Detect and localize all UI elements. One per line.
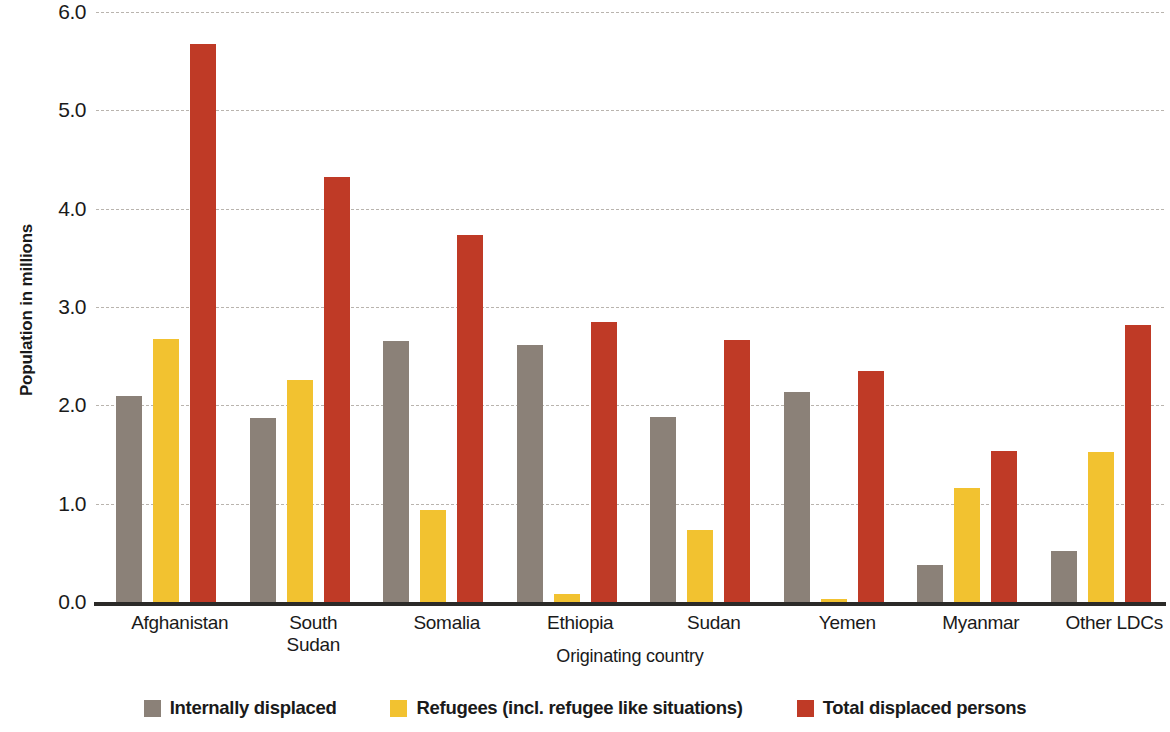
bar-group-bars bbox=[96, 12, 230, 602]
bar bbox=[724, 340, 750, 602]
legend-swatch-icon bbox=[390, 700, 407, 717]
bar bbox=[954, 488, 980, 602]
x-category-label: Myanmar bbox=[897, 612, 1031, 642]
bar bbox=[420, 510, 446, 602]
x-category-label: Ethiopia bbox=[497, 612, 631, 642]
bar bbox=[383, 341, 409, 602]
bar-group bbox=[497, 12, 631, 602]
bar bbox=[1051, 551, 1077, 602]
y-tick-label: 5.0 bbox=[6, 98, 86, 122]
y-tick-label: 0.0 bbox=[6, 590, 86, 614]
bar-group-bars bbox=[497, 12, 631, 602]
bar bbox=[917, 565, 943, 602]
bar-group-bars bbox=[630, 12, 764, 602]
x-category-label: Other LDCs bbox=[1031, 612, 1165, 642]
chart-legend: Internally displacedRefugees (incl. refu… bbox=[0, 697, 1170, 719]
bar-group bbox=[230, 12, 364, 602]
bar bbox=[554, 594, 580, 602]
bar-group bbox=[897, 12, 1031, 602]
bar-chart: Population in millions 6.05.04.03.02.01.… bbox=[0, 0, 1170, 732]
bar bbox=[250, 418, 276, 602]
bar-group bbox=[764, 12, 898, 602]
bar bbox=[324, 177, 350, 602]
legend-label: Internally displaced bbox=[170, 697, 337, 719]
bar-group-bars bbox=[764, 12, 898, 602]
x-category-label: Sudan bbox=[630, 612, 764, 642]
legend-label: Total displaced persons bbox=[823, 697, 1027, 719]
bar-group-bars bbox=[897, 12, 1031, 602]
bar bbox=[821, 599, 847, 602]
bar bbox=[190, 44, 216, 602]
bar bbox=[153, 339, 179, 602]
bar-groups bbox=[96, 12, 1164, 602]
bar bbox=[517, 345, 543, 602]
bar-group-bars bbox=[230, 12, 364, 602]
bar bbox=[1125, 325, 1151, 602]
bar bbox=[457, 235, 483, 602]
y-tick-label: 2.0 bbox=[6, 393, 86, 417]
legend-item: Total displaced persons bbox=[797, 697, 1027, 719]
bar bbox=[650, 417, 676, 602]
bar-group bbox=[630, 12, 764, 602]
bar-group-bars bbox=[363, 12, 497, 602]
bar bbox=[287, 380, 313, 602]
x-axis-title: Originating country bbox=[96, 646, 1164, 667]
legend-item: Refugees (incl. refugee like situations) bbox=[390, 697, 742, 719]
axis-baseline bbox=[94, 602, 1166, 606]
bar bbox=[1088, 452, 1114, 602]
x-category-label: South Sudan bbox=[230, 612, 364, 642]
legend-item: Internally displaced bbox=[144, 697, 337, 719]
bar bbox=[784, 392, 810, 602]
x-category-label: Somalia bbox=[363, 612, 497, 642]
y-tick-label: 3.0 bbox=[6, 295, 86, 319]
x-axis-category-labels: AfghanistanSouth SudanSomaliaEthiopiaSud… bbox=[96, 612, 1164, 642]
bar bbox=[858, 371, 884, 602]
bar-group-bars bbox=[1031, 12, 1165, 602]
bar bbox=[116, 396, 142, 603]
bar-group bbox=[1031, 12, 1165, 602]
bar bbox=[591, 322, 617, 602]
bar bbox=[687, 530, 713, 602]
y-tick-label: 4.0 bbox=[6, 197, 86, 221]
legend-label: Refugees (incl. refugee like situations) bbox=[416, 697, 742, 719]
x-category-label: Afghanistan bbox=[96, 612, 230, 642]
bar bbox=[991, 451, 1017, 602]
x-category-label: Yemen bbox=[764, 612, 898, 642]
legend-swatch-icon bbox=[797, 700, 814, 717]
y-tick-label: 6.0 bbox=[6, 0, 86, 24]
legend-swatch-icon bbox=[144, 700, 161, 717]
bar-group bbox=[96, 12, 230, 602]
y-tick-label: 1.0 bbox=[6, 492, 86, 516]
plot-area bbox=[96, 12, 1164, 602]
bar-group bbox=[363, 12, 497, 602]
